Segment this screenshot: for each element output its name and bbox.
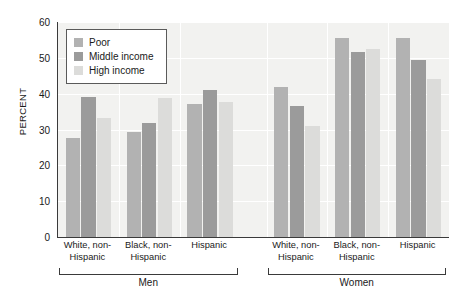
x-axis-label-line: Black, non-	[118, 240, 179, 252]
y-tick-label: 0	[24, 232, 50, 243]
x-axis-category-labels: White, non-HispanicBlack, non-HispanicHi…	[57, 240, 448, 266]
bar	[219, 102, 233, 237]
legend-swatch-icon	[74, 38, 83, 47]
legend-label: High income	[89, 65, 145, 76]
y-tick-label: 50	[24, 52, 50, 63]
bar	[127, 132, 141, 237]
x-axis-label: Hispanic	[387, 240, 448, 252]
x-axis-label: Black, non-Hispanic	[118, 240, 179, 263]
bar-chart: PERCENT 0102030405060 PoorMiddle incomeH…	[0, 0, 455, 301]
x-axis-label-line: Hispanic	[326, 252, 387, 264]
x-axis-label-line: White, non-	[266, 240, 327, 252]
x-axis-label-line: Hispanic	[118, 252, 179, 264]
x-axis-label-line: Hispanic	[266, 252, 327, 264]
bar	[366, 49, 380, 237]
chart-legend: PoorMiddle incomeHigh income	[66, 29, 167, 84]
legend-label: Poor	[89, 37, 110, 48]
bar	[411, 60, 425, 237]
legend-label: Middle income	[89, 51, 153, 62]
x-axis-label-line: Hispanic	[387, 240, 448, 252]
bar	[203, 90, 217, 237]
y-tick-label: 30	[24, 124, 50, 135]
legend-item: High income	[74, 64, 153, 77]
group-bracket-label: Men	[59, 277, 238, 288]
legend-swatch-icon	[74, 66, 83, 75]
bar	[427, 79, 441, 237]
legend-swatch-icon	[74, 52, 83, 61]
y-tick-label: 60	[24, 17, 50, 28]
group-bracket	[59, 268, 238, 275]
bar	[290, 106, 304, 237]
y-tick-label: 10	[24, 196, 50, 207]
x-axis-label: Black, non-Hispanic	[326, 240, 387, 263]
x-axis-label-line: Black, non-	[326, 240, 387, 252]
group-bracket-label: Women	[268, 277, 447, 288]
bar	[142, 123, 156, 237]
legend-item: Poor	[74, 36, 153, 49]
bar	[305, 126, 319, 237]
x-axis-label: White, non-Hispanic	[266, 240, 327, 263]
x-axis-label-line: Hispanic	[179, 240, 240, 252]
y-axis-tick-labels: 0102030405060	[24, 0, 50, 301]
bar	[396, 38, 410, 237]
y-tick-label: 20	[24, 160, 50, 171]
bar	[66, 138, 80, 237]
bar	[335, 38, 349, 237]
bar	[187, 104, 201, 237]
y-tick-label: 40	[24, 88, 50, 99]
x-axis-label: Hispanic	[179, 240, 240, 252]
x-axis-label-line: White, non-	[57, 240, 118, 252]
bar	[351, 52, 365, 237]
x-axis-label-line: Hispanic	[57, 252, 118, 264]
bar	[274, 87, 288, 238]
legend-item: Middle income	[74, 50, 153, 63]
x-axis-label: White, non-Hispanic	[57, 240, 118, 263]
bar	[158, 98, 172, 237]
group-brackets: MenWomen	[57, 268, 448, 301]
bar	[81, 97, 95, 237]
group-bracket	[268, 268, 447, 275]
bar	[97, 118, 111, 237]
